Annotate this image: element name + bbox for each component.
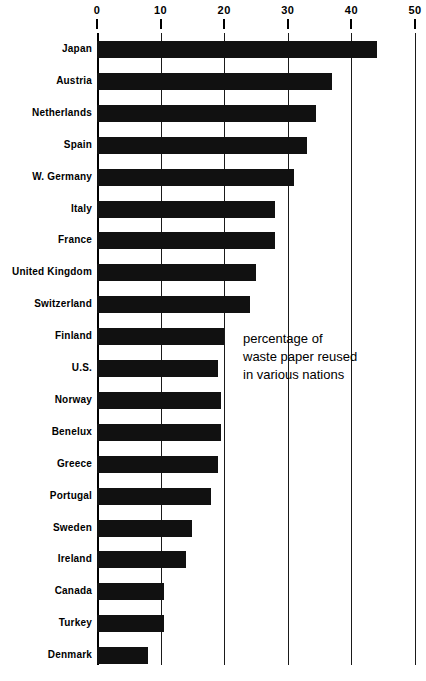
bar-label-united-kingdom: United Kingdom bbox=[0, 263, 92, 281]
bar bbox=[97, 137, 307, 154]
bar-row: France bbox=[0, 232, 426, 249]
bar-label-w-germany: W. Germany bbox=[0, 168, 92, 186]
bar-row: Canada bbox=[0, 583, 426, 600]
annotation-line-3: in various nations bbox=[243, 366, 418, 384]
bar-label-greece: Greece bbox=[0, 455, 92, 473]
bar-row: Turkey bbox=[0, 615, 426, 632]
bar bbox=[97, 360, 218, 377]
bar-row: Ireland bbox=[0, 551, 426, 568]
bar-row: Greece bbox=[0, 456, 426, 473]
bar bbox=[97, 232, 275, 249]
annotation-line-1: percentage of bbox=[243, 330, 418, 348]
bar-row: Italy bbox=[0, 201, 426, 218]
bar-label-switzerland: Switzerland bbox=[0, 295, 92, 313]
bar-row: W. Germany bbox=[0, 169, 426, 186]
bar-label-finland: Finland bbox=[0, 327, 92, 345]
bar bbox=[97, 73, 332, 90]
bar-label-portugal: Portugal bbox=[0, 487, 92, 505]
bar-row: Netherlands bbox=[0, 105, 426, 122]
bar bbox=[97, 488, 211, 505]
bar-row: Japan bbox=[0, 41, 426, 58]
bar-row: Spain bbox=[0, 137, 426, 154]
bar bbox=[97, 264, 256, 281]
chart-annotation: percentage of waste paper reused in vari… bbox=[243, 330, 418, 384]
bar-label-austria: Austria bbox=[0, 72, 92, 90]
bar bbox=[97, 41, 377, 58]
bar bbox=[97, 296, 250, 313]
bar-label-japan: Japan bbox=[0, 40, 92, 58]
bar bbox=[97, 647, 148, 664]
bar-label-spain: Spain bbox=[0, 136, 92, 154]
bar bbox=[97, 424, 221, 441]
bar-row: Austria bbox=[0, 73, 426, 90]
bar-label-turkey: Turkey bbox=[0, 614, 92, 632]
bar-label-ireland: Ireland bbox=[0, 550, 92, 568]
bar-label-u-s: U.S. bbox=[0, 359, 92, 377]
annotation-line-2: waste paper reused bbox=[243, 348, 418, 366]
bar-label-france: France bbox=[0, 231, 92, 249]
bar-row: Norway bbox=[0, 392, 426, 409]
bar bbox=[97, 520, 192, 537]
bar bbox=[97, 583, 164, 600]
bar-row: Portugal bbox=[0, 488, 426, 505]
bar bbox=[97, 328, 224, 345]
bar-label-sweden: Sweden bbox=[0, 519, 92, 537]
bar-label-norway: Norway bbox=[0, 391, 92, 409]
bar-row: United Kingdom bbox=[0, 264, 426, 281]
bar-label-denmark: Denmark bbox=[0, 646, 92, 664]
bar bbox=[97, 201, 275, 218]
bar bbox=[97, 169, 294, 186]
bar-label-netherlands: Netherlands bbox=[0, 104, 92, 122]
bar-label-canada: Canada bbox=[0, 582, 92, 600]
bar-label-italy: Italy bbox=[0, 200, 92, 218]
bar-label-benelux: Benelux bbox=[0, 423, 92, 441]
bar-row: Sweden bbox=[0, 520, 426, 537]
bar-row: Benelux bbox=[0, 424, 426, 441]
bar bbox=[97, 551, 186, 568]
bar bbox=[97, 456, 218, 473]
bar bbox=[97, 105, 316, 122]
bar bbox=[97, 392, 221, 409]
bar-row: Switzerland bbox=[0, 296, 426, 313]
bar-row: Denmark bbox=[0, 647, 426, 664]
bar bbox=[97, 615, 164, 632]
chart-container: 01020304050 JapanAustriaNetherlandsSpain… bbox=[0, 0, 426, 681]
